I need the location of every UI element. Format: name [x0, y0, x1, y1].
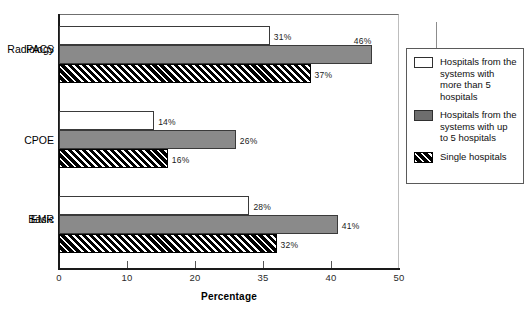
category-label-line: EMR — [0, 213, 54, 225]
bar-hatched — [59, 149, 168, 168]
x-axis-tick-label: 40 — [316, 272, 346, 283]
x-axis-tick-mark — [127, 261, 128, 268]
gray-swatch-icon — [414, 110, 433, 121]
legend: Hospitals from the systems with more tha… — [406, 48, 524, 184]
bar-gray — [59, 215, 338, 234]
x-axis-tick-label: 10 — [112, 272, 142, 283]
bar-hatched — [59, 234, 277, 253]
hatch-swatch-icon — [414, 152, 433, 163]
x-axis-tick-mark — [331, 261, 332, 268]
bar-value-label: 37% — [315, 70, 333, 80]
bar-value-label: 31% — [274, 32, 292, 42]
bar-value-label: 28% — [253, 202, 271, 212]
legend-connector-line — [436, 22, 437, 49]
x-axis-tick-mark — [195, 261, 196, 268]
legend-item: Single hospitals — [414, 151, 517, 163]
legend-item-label: Hospitals from the systems with more tha… — [440, 56, 517, 102]
bar-value-label: 46% — [354, 36, 372, 46]
legend-item-label: Single hospitals — [440, 151, 507, 163]
white-swatch-icon — [414, 57, 433, 68]
x-axis-line — [58, 268, 400, 270]
legend-item: Hospitals from the systems with up to 5 … — [414, 109, 517, 144]
bar-white — [59, 196, 249, 215]
category-label-line: PACS — [0, 43, 54, 55]
x-axis-title: Percentage — [58, 291, 400, 302]
bar-hatched — [59, 64, 311, 83]
bar-value-label: 14% — [158, 117, 176, 127]
bar-gray — [59, 45, 372, 64]
bar-value-label: 26% — [240, 136, 258, 146]
bar-white — [59, 26, 270, 45]
bar-value-label: 41% — [342, 221, 360, 231]
bar-gray — [59, 130, 236, 149]
x-axis-tick-label: 50 — [384, 272, 414, 283]
legend-item-label: Hospitals from the systems with up to 5 … — [440, 109, 517, 144]
x-axis-tick-label: 20 — [180, 272, 210, 283]
category-label-line: CPOE — [0, 134, 54, 146]
x-axis-tick-label: 0 — [44, 272, 74, 283]
bar-value-label: 32% — [281, 240, 299, 250]
x-axis-tick-mark — [263, 261, 264, 268]
x-axis-tick-label: 35 — [248, 272, 278, 283]
legend-item: Hospitals from the systems with more tha… — [414, 56, 517, 102]
bar-white — [59, 111, 154, 130]
bar-value-label: 16% — [172, 155, 190, 165]
